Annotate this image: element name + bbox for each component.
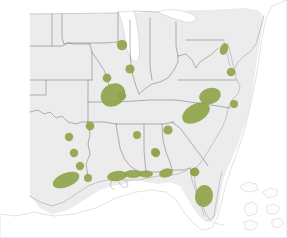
- range-marker-southern-georgia: Southern Georgia: [151, 148, 159, 156]
- range-marker-central-illinois: Central Illinois: [125, 64, 134, 73]
- map-canvas: Northern IllinoisCentral IllinoisCentral…: [0, 0, 287, 238]
- range-marker-alabama-gulf-coast: Alabama Gulf Coast: [139, 171, 153, 178]
- range-marker-northern-illinois: Northern Illinois: [117, 40, 127, 50]
- range-marker-southeastern-virginia: Southeastern Virginia: [227, 68, 235, 76]
- range-marker-southwest-louisiana: Southwest Louisiana: [84, 174, 92, 182]
- range-marker-central-mississippi: Central Mississippi: [133, 131, 141, 139]
- range-marker-western-tennessee: Western Tennessee: [118, 92, 126, 100]
- range-marker-east-texas: East Texas: [65, 133, 73, 141]
- range-marker-northeast-texas-border: Northeast Texas border: [70, 149, 78, 157]
- range-marker-northern-georgia: Northern Georgia: [163, 125, 172, 134]
- range-marker-southeast-georgia-coast: Southeast Georgia coast: [190, 168, 198, 176]
- range-marker-southern-arkansas: Southern Arkansas: [86, 122, 95, 131]
- distribution-map-figure: Northern IllinoisCentral IllinoisCentral…: [0, 0, 287, 238]
- range-marker-southeast-texas: Southeast Texas: [76, 162, 84, 170]
- range-marker-coastal-north-carolina: Coastal North Carolina: [230, 100, 238, 108]
- range-marker-central-missouri: Central Missouri: [103, 74, 112, 83]
